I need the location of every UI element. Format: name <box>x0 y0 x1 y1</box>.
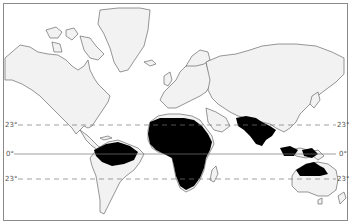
label-equator-right: 0° <box>339 151 347 158</box>
label-cancer-left: 23° <box>5 122 17 129</box>
label-cancer-right: 23° <box>337 122 349 129</box>
label-capricorn-right: 23° <box>337 176 349 183</box>
greenland <box>98 8 150 72</box>
label-capricorn-left: 23° <box>5 176 17 183</box>
world-map <box>0 0 351 224</box>
label-equator-left: 0° <box>6 151 14 158</box>
